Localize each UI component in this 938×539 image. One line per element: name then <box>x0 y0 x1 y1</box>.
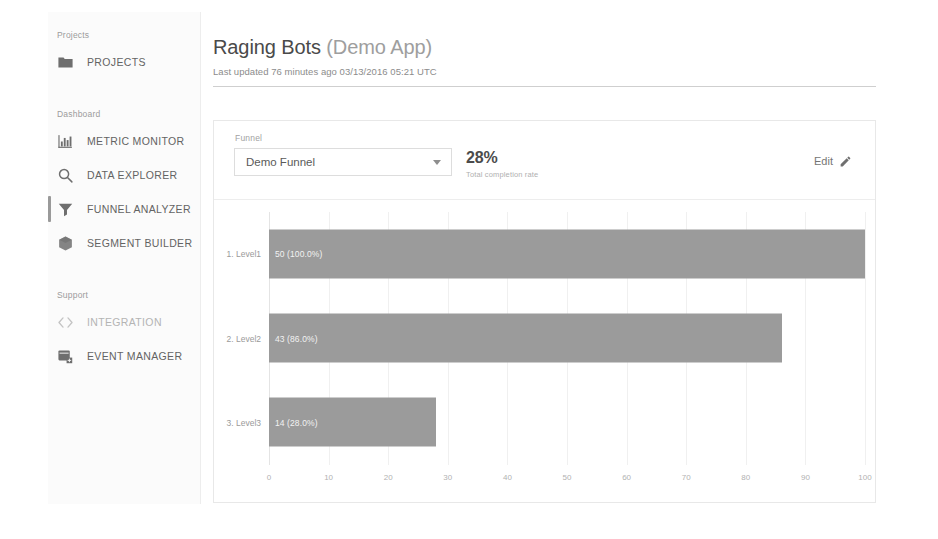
sidebar-item-segment-builder[interactable]: SEGMENT BUILDER <box>48 226 200 260</box>
chart-gridline <box>865 212 866 465</box>
funnel-select[interactable]: Demo Funnel <box>234 148 452 176</box>
sidebar-section-label-projects: Projects <box>48 30 200 40</box>
chevron-down-icon <box>433 160 441 165</box>
page-header: Raging Bots (Demo App) Last updated 76 m… <box>200 12 890 77</box>
chart-bar-row: 50 (100.0%)1. Level1 <box>269 212 865 295</box>
chart-x-axis: 0102030405060708090100 <box>269 473 865 487</box>
sidebar-section-support: Support INTEGRATION <box>48 290 200 373</box>
sidebar-item-label-data-explorer: DATA EXPLORER <box>87 169 178 181</box>
funnel-select-label: Funnel <box>235 133 262 143</box>
chart-bar[interactable]: 43 (86.0%)2. Level2 <box>269 314 782 363</box>
chart-x-tick-label: 20 <box>384 473 393 482</box>
sidebar-item-label-event-manager: EVENT MANAGER <box>87 350 182 362</box>
chart-category-label: 3. Level3 <box>227 417 262 427</box>
sidebar-section-projects: Projects PROJECTS <box>48 30 200 79</box>
bar-chart-icon <box>57 133 74 150</box>
sidebar-item-label-segment-builder: SEGMENT BUILDER <box>87 237 192 249</box>
card-toolbar: Funnel Demo Funnel 28% Total completion … <box>214 121 875 200</box>
edit-button[interactable]: Edit <box>812 149 854 173</box>
code-brackets-icon <box>57 314 74 331</box>
chart-bar-row: 43 (86.0%)2. Level2 <box>269 296 865 379</box>
chart-x-tick-label: 60 <box>622 473 631 482</box>
chart-plot-area: 50 (100.0%)1. Level143 (86.0%)2. Level21… <box>269 212 865 465</box>
sidebar-item-label-funnel-analyzer: FUNNEL ANALYZER <box>87 203 191 215</box>
completion-rate-caption: Total completion rate <box>466 170 538 179</box>
header-divider <box>213 86 876 87</box>
chart-bar-value-label: 14 (28.0%) <box>275 417 318 427</box>
sidebar-item-event-manager[interactable]: EVENT MANAGER <box>48 339 200 373</box>
sidebar-item-label-projects: PROJECTS <box>87 56 146 68</box>
completion-stat: 28% Total completion rate <box>466 149 538 179</box>
sidebar-item-funnel-analyzer[interactable]: FUNNEL ANALYZER <box>48 192 200 226</box>
funnel-card: Funnel Demo Funnel 28% Total completion … <box>213 120 876 503</box>
funnel-icon <box>57 201 74 218</box>
funnel-select-value: Demo Funnel <box>246 156 315 168</box>
app-root: Projects PROJECTS Dashboard <box>0 0 938 539</box>
edit-button-label: Edit <box>814 155 833 167</box>
chart-bar[interactable]: 14 (28.0%)3. Level3 <box>269 398 436 447</box>
sidebar-section-label-dashboard: Dashboard <box>48 109 200 119</box>
chart-x-tick-label: 0 <box>267 473 271 482</box>
chart-x-tick-label: 40 <box>503 473 512 482</box>
chart-bar[interactable]: 50 (100.0%)1. Level1 <box>269 229 865 278</box>
chart-x-tick-label: 30 <box>443 473 452 482</box>
chart-bar-row: 14 (28.0%)3. Level3 <box>269 381 865 464</box>
sidebar-item-label-integration: INTEGRATION <box>87 316 162 328</box>
chart-x-tick-label: 80 <box>741 473 750 482</box>
sidebar-item-metric-monitor[interactable]: METRIC MONITOR <box>48 124 200 158</box>
chart-x-tick-label: 10 <box>324 473 333 482</box>
chart-category-label: 1. Level1 <box>227 249 262 259</box>
chart-x-tick-label: 100 <box>858 473 871 482</box>
page-title-suffix: (Demo App) <box>326 36 432 58</box>
chart-bar-value-label: 43 (86.0%) <box>275 333 318 343</box>
completion-rate-value: 28% <box>466 149 538 167</box>
chart-category-label: 2. Level2 <box>227 333 262 343</box>
chart-x-tick-label: 70 <box>682 473 691 482</box>
cube-icon <box>57 235 74 252</box>
sidebar-item-projects[interactable]: PROJECTS <box>48 45 200 79</box>
sidebar-item-label-metric-monitor: METRIC MONITOR <box>87 135 184 147</box>
sidebar-section-dashboard: Dashboard METRIC MONITOR <box>48 109 200 260</box>
folder-icon <box>57 54 74 71</box>
chart-x-tick-label: 50 <box>563 473 572 482</box>
page-title: Raging Bots (Demo App) <box>213 34 890 60</box>
sidebar-item-data-explorer[interactable]: DATA EXPLORER <box>48 158 200 192</box>
search-icon <box>57 167 74 184</box>
active-indicator <box>48 196 51 222</box>
page-title-app-name: Raging Bots <box>213 36 326 58</box>
main-content: Raging Bots (Demo App) Last updated 76 m… <box>200 12 890 504</box>
last-updated-text: Last updated 76 minutes ago 03/13/2016 0… <box>213 66 890 77</box>
sidebar-section-label-support: Support <box>48 290 200 300</box>
funnel-chart: 50 (100.0%)1. Level143 (86.0%)2. Level21… <box>214 200 875 503</box>
pencil-icon <box>839 155 852 168</box>
chart-bar-value-label: 50 (100.0%) <box>275 249 322 259</box>
event-manager-icon <box>57 348 74 365</box>
chart-x-tick-label: 90 <box>801 473 810 482</box>
sidebar-item-integration[interactable]: INTEGRATION <box>48 305 200 339</box>
sidebar: Projects PROJECTS Dashboard <box>48 12 201 504</box>
